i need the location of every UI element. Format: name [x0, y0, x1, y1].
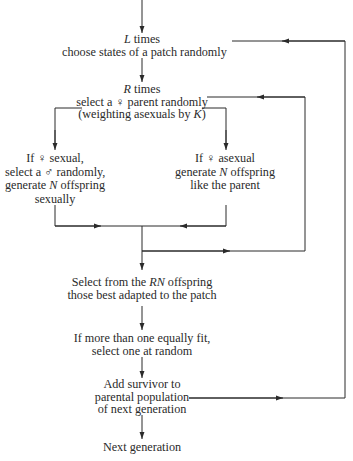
node-sexual: If ♀ sexual, select a ♂ randomly, genera… — [5, 152, 105, 206]
var-l: L — [124, 32, 131, 46]
var-r: R — [124, 82, 131, 96]
node-asexual: If ♀ asexual generate N offspring like t… — [175, 152, 275, 193]
join-asexual — [142, 205, 226, 226]
node-next-generation: Next generation — [82, 441, 202, 454]
var-rn: RN — [149, 275, 165, 289]
node-r-loop: R times select a ♀ parent randomly (weig… — [62, 83, 222, 121]
var-k: K — [194, 107, 202, 121]
node-add-survivor: Add survivor to parental population of n… — [82, 378, 202, 416]
l-loop-desc: choose states of a patch randomly — [62, 46, 222, 59]
join-sexual — [55, 205, 142, 226]
node-tie-break: If more than one equally fit, select one… — [62, 332, 222, 358]
node-l-loop: L times choose states of a patch randoml… — [62, 33, 222, 58]
node-select-best: Select from the RN offspring those best … — [62, 276, 222, 302]
